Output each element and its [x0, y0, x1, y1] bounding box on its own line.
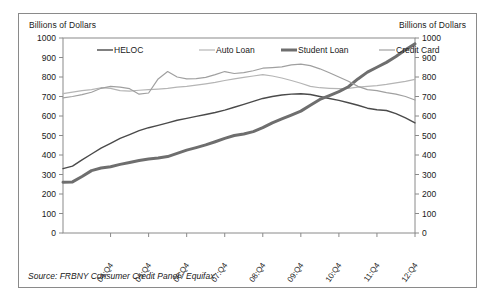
series-line-heloc [63, 94, 415, 169]
y-tick-label-right: 300 [422, 170, 436, 180]
y-tick-label-left: 800 [42, 72, 56, 82]
y-tick-label-right: 500 [422, 131, 436, 141]
series-line-credit-card [63, 64, 415, 100]
y-tick-label-right: 100 [422, 209, 436, 219]
y-tick-label-right: 200 [422, 189, 436, 199]
chart-figure: Billions of Dollars Billions of Dollars … [18, 13, 477, 288]
legend-label-credit-card: Credit Card [396, 45, 440, 55]
x-tick-label: 09:Q4 [286, 261, 306, 284]
y-tick-label-left: 300 [42, 170, 56, 180]
y-tick-label-right: 800 [422, 72, 436, 82]
y-tick-label-left: 100 [42, 209, 56, 219]
y-tick-label-left: 700 [42, 92, 56, 102]
x-tick-label: 08:Q4 [248, 261, 268, 284]
y-tick-label-right: 0 [422, 228, 427, 238]
y-tick-label-left: 400 [42, 150, 56, 160]
y-tick-label-left: 500 [42, 131, 56, 141]
y-tick-label-left: 200 [42, 189, 56, 199]
y-tick-label-right: 1000 [422, 33, 441, 43]
x-tick-label: 11:Q4 [362, 261, 382, 284]
y-tick-label-left: 1000 [37, 33, 56, 43]
source-note: Source: FRBNY Consumer Credit Panel / Eq… [28, 271, 214, 281]
y-tick-label-right: 400 [422, 150, 436, 160]
line-chart-svg: 1000100090090080080070070060060050050040… [19, 14, 476, 287]
y-tick-label-left: 0 [51, 228, 56, 238]
legend-label-auto-loan: Auto Loan [216, 45, 255, 55]
x-tick-label: 12:Q4 [400, 261, 420, 284]
y-tick-label-right: 700 [422, 92, 436, 102]
legend-label-heloc: HELOC [114, 45, 143, 55]
y-tick-label-right: 600 [422, 111, 436, 121]
y-tick-label-left: 900 [42, 53, 56, 63]
legend-label-student-loan: Student Loan [298, 45, 349, 55]
plot-area: 1000100090090080080070070060060050050040… [19, 14, 476, 287]
y-tick-label-left: 600 [42, 111, 56, 121]
series-line-student-loan [63, 44, 415, 182]
x-tick-label: 10:Q4 [324, 261, 344, 284]
